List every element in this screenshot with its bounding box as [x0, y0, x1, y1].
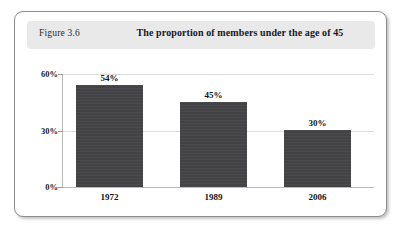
y-tick-label-60: 60%	[18, 69, 58, 79]
bar-value-2006: 30%	[284, 118, 351, 128]
bar-value-1972: 54%	[76, 73, 143, 83]
y-tick-mark-30	[58, 131, 63, 132]
category-label-1972: 1972	[76, 192, 143, 202]
figure-frame: Figure 3.6 The proportion of members und…	[14, 11, 387, 217]
category-label-1989: 1989	[180, 192, 247, 202]
y-tick-mark-60	[58, 74, 63, 75]
x-axis-line	[56, 187, 374, 188]
bar-1972[interactable]	[76, 85, 143, 187]
y-tick-label-0: 0%	[18, 182, 58, 192]
bar-chart-plot-area: 60% 30% 0% 54% 1972 45% 1989 30% 2006	[15, 12, 388, 218]
bar-1989[interactable]	[180, 102, 247, 187]
bar-value-1989: 45%	[180, 90, 247, 100]
category-label-2006: 2006	[284, 192, 351, 202]
y-tick-mark-0	[58, 187, 63, 188]
bar-2006[interactable]	[284, 130, 351, 187]
y-tick-label-30: 30%	[18, 126, 58, 136]
